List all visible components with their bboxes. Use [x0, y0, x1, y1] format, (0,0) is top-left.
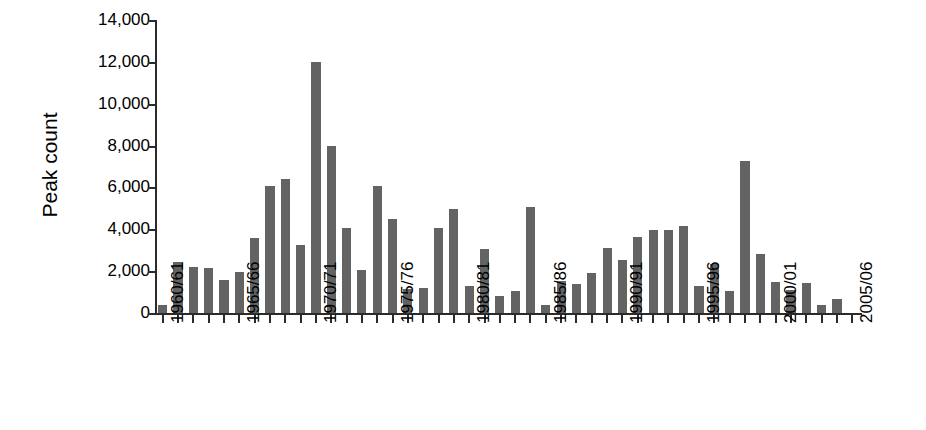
bar [434, 228, 443, 313]
x-axis-tick-label: 1970/71 [322, 262, 339, 323]
y-axis-tick-label: 12,000 [98, 53, 150, 70]
bar [664, 230, 673, 313]
bar [204, 268, 213, 313]
x-axis-tick-label: 1990/91 [628, 262, 645, 323]
bar [526, 207, 535, 313]
bar [235, 272, 244, 313]
y-axis-tick-mark [148, 229, 155, 231]
bar [740, 161, 749, 313]
x-axis-tick-label: 1980/81 [475, 262, 492, 323]
x-axis-tick-labels: 1960/611965/661970/711975/761980/811985/… [155, 313, 926, 430]
bar [618, 260, 627, 313]
bar [449, 209, 458, 313]
x-axis-tick-label: 1975/76 [399, 262, 416, 323]
bar [587, 273, 596, 313]
y-axis-tick-label: 10,000 [98, 95, 150, 112]
y-axis-tick-mark [148, 62, 155, 64]
bar [495, 296, 504, 313]
y-axis-tick-mark [148, 187, 155, 189]
bar [725, 291, 734, 313]
y-axis-tick-mark [148, 104, 155, 106]
x-axis-tick-label: 2005/06 [858, 262, 875, 323]
bar-chart-figure: Peak count 02,0004,0006,0008,00010,00012… [0, 0, 926, 430]
bar [357, 270, 366, 313]
y-axis-tick-mark [148, 313, 155, 315]
y-axis-tick-label: 2,000 [107, 262, 150, 279]
bar [771, 282, 780, 313]
bar [311, 62, 320, 313]
y-axis-tick-mark [148, 271, 155, 273]
y-axis-tick-label: 14,000 [98, 11, 150, 28]
bar [419, 288, 428, 313]
y-axis-tick-label: 6,000 [107, 178, 150, 195]
bar [281, 179, 290, 313]
y-axis-tick-labels: 02,0004,0006,0008,00010,00012,00014,000 [60, 0, 150, 430]
bar [817, 305, 826, 313]
x-axis-tick-label: 1995/96 [705, 262, 722, 323]
y-axis-tick-label: 4,000 [107, 220, 150, 237]
y-axis-tick-mark [148, 20, 155, 22]
bar [649, 230, 658, 313]
bar [296, 245, 305, 313]
bar [373, 186, 382, 313]
bar [511, 291, 520, 313]
bar [603, 248, 612, 313]
bar [802, 283, 811, 313]
y-axis-tick-mark [148, 146, 155, 148]
bar [265, 186, 274, 313]
bar [756, 254, 765, 313]
bar [219, 280, 228, 313]
bar [832, 299, 841, 313]
bar [388, 219, 397, 313]
x-axis-tick-label: 1985/86 [552, 262, 569, 323]
bar [465, 286, 474, 313]
bar [572, 284, 581, 313]
y-axis-line [155, 20, 157, 314]
y-axis-tick-label: 8,000 [107, 137, 150, 154]
x-axis-tick-label: 2000/01 [782, 262, 799, 323]
x-axis-tick-label: 1965/66 [245, 262, 262, 323]
bar [342, 228, 351, 313]
bar [694, 286, 703, 313]
bar [158, 305, 167, 313]
bar [679, 226, 688, 313]
x-axis-tick-label: 1960/61 [169, 262, 186, 323]
bar [189, 267, 198, 313]
bar [541, 305, 550, 313]
